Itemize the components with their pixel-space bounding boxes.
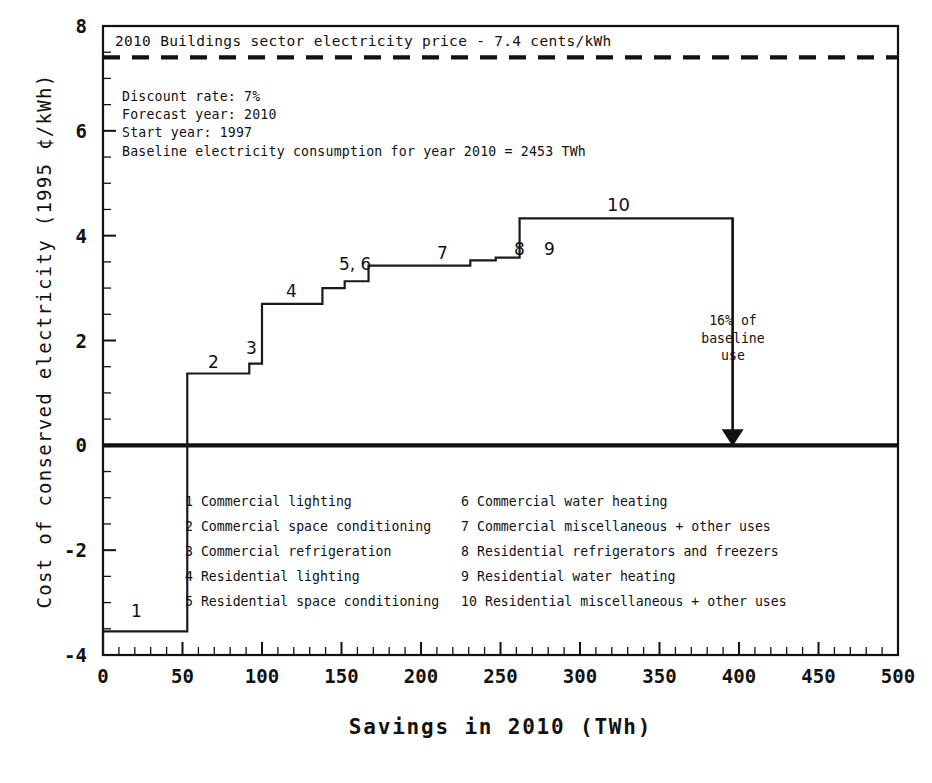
step-label-7: 7 <box>437 243 448 263</box>
y-axis-tick-label: 2 <box>76 330 87 352</box>
legend-item: 3 Commercial refrigeration <box>185 539 439 564</box>
x-axis-tick-label: 500 <box>881 665 915 687</box>
chart-canvas: Cost of conserved electricity (1995 ¢/kW… <box>0 0 932 783</box>
legend-item-number: 3 <box>185 544 193 559</box>
step-label-5-6: 5, 6 <box>339 254 371 274</box>
legend-item-number: 8 <box>461 544 469 559</box>
step-label-1: 1 <box>131 601 142 621</box>
legend-column-right: 6 Commercial water heating 7 Commercial … <box>461 489 787 614</box>
legend-item-number: 7 <box>461 519 469 534</box>
arrow-annotation: 16% of baseline use <box>673 312 793 365</box>
param-forecast-year: Forecast year: 2010 <box>122 106 586 124</box>
legend-item-number: 5 <box>185 594 193 609</box>
legend-item: 7 Commercial miscellaneous + other uses <box>461 514 787 539</box>
legend-item-label: Residential miscellaneous + other uses <box>485 594 787 609</box>
step-label-3: 3 <box>246 338 257 358</box>
legend-item-number: 1 <box>185 494 193 509</box>
y-axis-tick-label: 6 <box>76 120 87 142</box>
legend-item-number: 9 <box>461 569 469 584</box>
y-axis-tick-label: 4 <box>76 225 87 247</box>
x-axis-tick-label: 0 <box>97 665 108 687</box>
param-start-year: Start year: 1997 <box>122 124 586 142</box>
legend-item-label: Residential refrigerators and freezers <box>477 544 779 559</box>
x-axis-title: Savings in 2010 (TWh) <box>103 715 898 739</box>
legend-item: 8 Residential refrigerators and freezers <box>461 539 787 564</box>
price-line-caption-text: 2010 Buildings sector electricity price … <box>115 33 612 49</box>
step-label-9: 9 <box>544 239 555 259</box>
x-axis-tick-label: 150 <box>324 665 358 687</box>
legend-item: 10 Residential miscellaneous + other use… <box>461 589 787 614</box>
legend-item-label: Commercial water heating <box>477 494 668 509</box>
arrow-annotation-line-1: 16% of <box>673 312 793 330</box>
y-axis-tick-label: -4 <box>64 644 87 666</box>
y-axis-tick-label: 0 <box>76 434 87 456</box>
legend-item-number: 6 <box>461 494 469 509</box>
arrow-annotation-line-2: baseline <box>673 330 793 348</box>
legend-item-label: Commercial refrigeration <box>201 544 392 559</box>
step-label-10: 10 <box>607 194 630 215</box>
legend-item: 6 Commercial water heating <box>461 489 787 514</box>
step-label-2: 2 <box>208 352 219 372</box>
step-label-8: 8 <box>514 239 525 259</box>
x-axis-tick-label: 350 <box>642 665 676 687</box>
param-baseline-consumption: Baseline electricity consumption for yea… <box>122 143 586 161</box>
legend-item: 2 Commercial space conditioning <box>185 514 439 539</box>
legend-item: 5 Residential space conditioning <box>185 589 439 614</box>
legend-item-number: 10 <box>461 594 477 609</box>
x-axis-tick-label: 450 <box>801 665 835 687</box>
x-axis-tick-label: 100 <box>245 665 279 687</box>
legend: 1 Commercial lighting 2 Commercial space… <box>185 489 787 614</box>
legend-item-number: 4 <box>185 569 193 584</box>
legend-item-label: Commercial lighting <box>201 494 352 509</box>
legend-item: 9 Residential water heating <box>461 564 787 589</box>
legend-item: 4 Residential lighting <box>185 564 439 589</box>
x-axis-tick-label: 400 <box>722 665 756 687</box>
arrow-annotation-line-3: use <box>673 347 793 365</box>
y-axis-tick-label: 8 <box>76 15 87 37</box>
parameters-block: Discount rate: 7% Forecast year: 2010 St… <box>122 88 586 161</box>
legend-item-number: 2 <box>185 519 193 534</box>
legend-column-left: 1 Commercial lighting 2 Commercial space… <box>185 489 439 614</box>
x-axis-tick-label: 50 <box>171 665 194 687</box>
legend-item-label: Residential lighting <box>201 569 360 584</box>
x-axis-tick-label: 200 <box>404 665 438 687</box>
step-label-4: 4 <box>286 281 297 301</box>
y-axis-tick-label: -2 <box>64 539 87 561</box>
legend-item: 1 Commercial lighting <box>185 489 439 514</box>
legend-item-label: Residential water heating <box>477 569 676 584</box>
legend-item-label: Residential space conditioning <box>201 594 439 609</box>
x-axis-tick-label: 250 <box>483 665 517 687</box>
x-axis-title-text: Savings in 2010 (TWh) <box>349 715 652 739</box>
legend-item-label: Commercial miscellaneous + other uses <box>477 519 771 534</box>
price-line-caption: 2010 Buildings sector electricity price … <box>115 33 612 49</box>
legend-item-label: Commercial space conditioning <box>201 519 431 534</box>
param-discount-rate: Discount rate: 7% <box>122 88 586 106</box>
x-axis-tick-label: 300 <box>563 665 597 687</box>
